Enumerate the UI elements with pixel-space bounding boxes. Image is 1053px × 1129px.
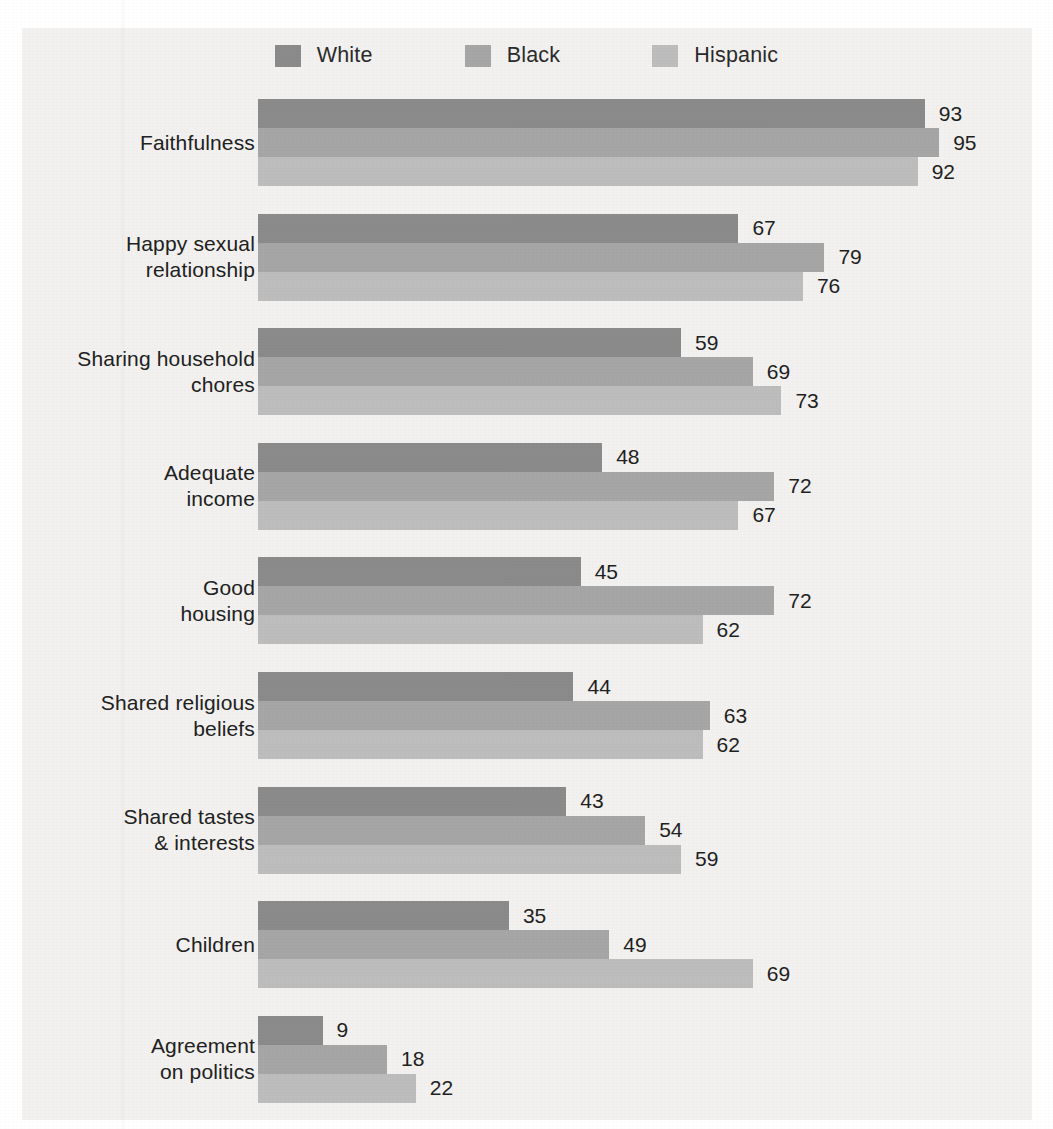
bar-value-label: 18 xyxy=(401,1047,424,1071)
bar-hispanic[interactable] xyxy=(258,1074,416,1103)
category-label: Adequate income xyxy=(0,460,255,512)
bar-black[interactable] xyxy=(258,586,774,615)
bar-value-label: 93 xyxy=(939,102,962,126)
bar-value-label: 79 xyxy=(838,245,861,269)
bar-black[interactable] xyxy=(258,472,774,501)
bar-value-label: 95 xyxy=(953,131,976,155)
category-label: Sharing household chores xyxy=(0,346,255,398)
bar-white[interactable] xyxy=(258,214,738,243)
category-label: Good housing xyxy=(0,575,255,627)
bar-value-label: 92 xyxy=(932,160,955,184)
bar-black[interactable] xyxy=(258,930,609,959)
bar-hispanic[interactable] xyxy=(258,272,803,301)
bar-value-label: 72 xyxy=(788,589,811,613)
bar-value-label: 62 xyxy=(717,733,740,757)
bar-value-label: 63 xyxy=(724,704,747,728)
bar-hispanic[interactable] xyxy=(258,845,681,874)
bar-value-label: 69 xyxy=(767,962,790,986)
bar-white[interactable] xyxy=(258,787,566,816)
bar-value-label: 67 xyxy=(752,503,775,527)
bar-black[interactable] xyxy=(258,701,710,730)
bar-value-label: 22 xyxy=(430,1076,453,1100)
category-label: Shared religious beliefs xyxy=(0,690,255,742)
chart-page: White Black Hispanic Faithfulness939592H… xyxy=(0,0,1053,1129)
bar-white[interactable] xyxy=(258,328,681,357)
bar-value-label: 73 xyxy=(795,389,818,413)
bar-value-label: 59 xyxy=(695,847,718,871)
category-label: Children xyxy=(0,932,255,958)
bar-white[interactable] xyxy=(258,672,573,701)
bar-value-label: 69 xyxy=(767,360,790,384)
bar-hispanic[interactable] xyxy=(258,501,738,530)
bar-value-label: 54 xyxy=(659,818,682,842)
bar-hispanic[interactable] xyxy=(258,615,703,644)
category-label: Agreement on politics xyxy=(0,1033,255,1085)
bar-hispanic[interactable] xyxy=(258,386,781,415)
bar-value-label: 49 xyxy=(623,933,646,957)
bar-value-label: 59 xyxy=(695,331,718,355)
bar-white[interactable] xyxy=(258,99,925,128)
bar-black[interactable] xyxy=(258,816,645,845)
bar-hispanic[interactable] xyxy=(258,959,753,988)
plot-area: Faithfulness939592Happy sexual relations… xyxy=(0,0,1053,1129)
bar-value-label: 35 xyxy=(523,904,546,928)
bar-value-label: 43 xyxy=(580,789,603,813)
bar-value-label: 44 xyxy=(587,675,610,699)
bar-black[interactable] xyxy=(258,128,939,157)
bar-white[interactable] xyxy=(258,557,581,586)
category-label: Shared tastes & interests xyxy=(0,804,255,856)
bar-hispanic[interactable] xyxy=(258,157,918,186)
bar-black[interactable] xyxy=(258,243,824,272)
bar-hispanic[interactable] xyxy=(258,730,703,759)
bar-black[interactable] xyxy=(258,357,753,386)
bar-value-label: 45 xyxy=(595,560,618,584)
bar-value-label: 72 xyxy=(788,474,811,498)
bar-white[interactable] xyxy=(258,901,509,930)
category-label: Happy sexual relationship xyxy=(0,231,255,283)
category-label: Faithfulness xyxy=(0,130,255,156)
bar-value-label: 48 xyxy=(616,445,639,469)
bar-value-label: 67 xyxy=(752,216,775,240)
bar-white[interactable] xyxy=(258,443,602,472)
bar-black[interactable] xyxy=(258,1045,387,1074)
bar-value-label: 76 xyxy=(817,274,840,298)
bar-white[interactable] xyxy=(258,1016,323,1045)
bar-value-label: 9 xyxy=(337,1018,349,1042)
bar-value-label: 62 xyxy=(717,618,740,642)
